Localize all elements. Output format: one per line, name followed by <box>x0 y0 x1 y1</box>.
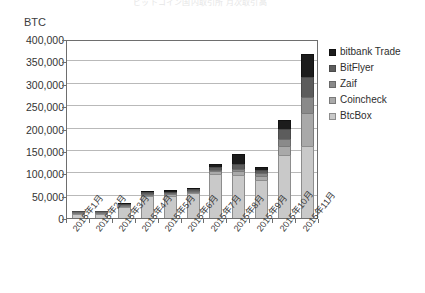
legend-item[interactable]: bitbank Trade <box>329 44 401 60</box>
legend-swatch-icon <box>329 81 336 88</box>
legend-item[interactable]: BtcBox <box>329 108 401 124</box>
legend-swatch-icon <box>329 49 336 56</box>
legend-item[interactable]: Zaif <box>329 76 401 92</box>
legend-swatch-icon <box>329 113 336 120</box>
legend-swatch-icon <box>329 65 336 72</box>
legend-swatch-icon <box>329 97 336 104</box>
legend-item-label: Coincheck <box>340 92 387 108</box>
chart-legend: bitbank TradeBitFlyerZaifCoincheckBtcBox <box>329 44 401 124</box>
legend-item-label: Zaif <box>340 76 357 92</box>
legend-item[interactable]: Coincheck <box>329 92 401 108</box>
chart-container: ビットコイン国内取引所 月次取引高 BTC 050,000100,000150,… <box>0 0 425 293</box>
legend-item-label: BtcBox <box>340 108 372 124</box>
legend-item[interactable]: BitFlyer <box>329 60 401 76</box>
legend-item-label: BitFlyer <box>340 60 374 76</box>
legend-item-label: bitbank Trade <box>340 44 401 60</box>
